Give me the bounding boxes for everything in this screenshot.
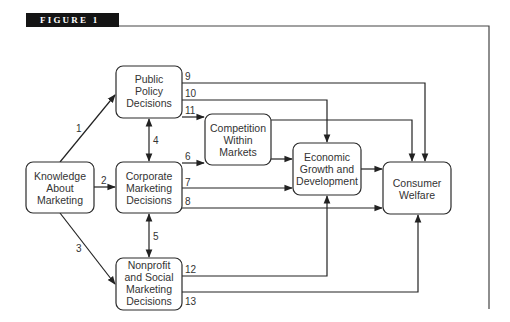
svg-text:Knowledge: Knowledge [34, 170, 86, 182]
svg-text:Nonprofit: Nonprofit [128, 259, 171, 271]
node-nonprofit-social-marketing-decisions: Nonprofit and Social Marketing Decisions [116, 258, 182, 310]
svg-text:Decisions: Decisions [126, 295, 172, 307]
svg-text:Marketing: Marketing [37, 194, 83, 206]
svg-text:Development: Development [296, 175, 358, 187]
edge-label-3: 3 [76, 243, 82, 254]
svg-text:About: About [46, 182, 74, 194]
flow-diagram: 1 2 3 4 5 6 7 8 9 10 11 12 13 Knowledge … [0, 0, 510, 322]
edge-label-9: 9 [185, 71, 191, 82]
svg-text:Decisions: Decisions [126, 97, 172, 109]
edge-1 [60, 95, 115, 162]
svg-text:Marketing: Marketing [126, 182, 172, 194]
edge-label-7: 7 [185, 177, 191, 188]
svg-text:Consumer: Consumer [393, 177, 442, 189]
node-knowledge-about-marketing: Knowledge About Marketing [26, 162, 94, 213]
svg-text:Within: Within [223, 134, 252, 146]
edge-label-1: 1 [76, 123, 82, 134]
svg-text:Economic: Economic [304, 151, 350, 163]
edge-label-12: 12 [185, 264, 197, 275]
svg-text:Public: Public [135, 73, 164, 85]
svg-text:and Social: and Social [124, 271, 173, 283]
edge-label-8: 8 [185, 196, 191, 207]
svg-text:Decisions: Decisions [126, 194, 172, 206]
edge-label-6: 6 [185, 151, 191, 162]
edge-13 [182, 215, 418, 292]
svg-text:Markets: Markets [219, 146, 256, 158]
svg-text:Growth and: Growth and [300, 163, 354, 175]
edge-label-2: 2 [101, 175, 107, 186]
node-public-policy-decisions: Public Policy Decisions [116, 66, 182, 118]
svg-text:Welfare: Welfare [399, 189, 435, 201]
edge-label-4: 4 [153, 135, 159, 146]
edge-label-5: 5 [153, 231, 159, 242]
edge-label-13: 13 [185, 296, 197, 307]
svg-text:Policy: Policy [135, 85, 164, 97]
edge-label-11: 11 [185, 105, 196, 116]
svg-text:Competition: Competition [210, 122, 266, 134]
node-economic-growth-development: Economic Growth and Development [293, 143, 361, 195]
edge-3 [60, 213, 115, 284]
edge-label-10: 10 [185, 88, 197, 99]
node-consumer-welfare: Consumer Welfare [383, 162, 451, 214]
svg-text:Marketing: Marketing [126, 283, 172, 295]
svg-text:Corporate: Corporate [126, 170, 173, 182]
node-corporate-marketing-decisions: Corporate Marketing Decisions [116, 162, 182, 213]
node-competition-within-markets: Competition Within Markets [205, 114, 271, 165]
